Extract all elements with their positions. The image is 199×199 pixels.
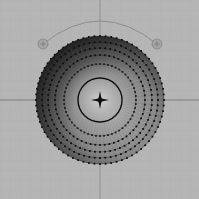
3d-viewport[interactable] (0, 0, 199, 199)
viewport-canvas[interactable] (0, 0, 199, 199)
